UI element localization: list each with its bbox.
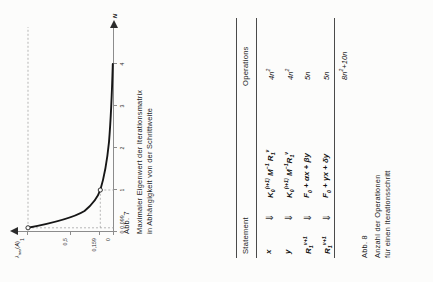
row-statement-rhs: F0 + γx + δy [321, 154, 332, 198]
operations-table: Statement Operations x ⇓ K0(ι+1) M−1 R1ν… [236, 18, 356, 258]
figure-8-caption-line1: Anzahl der Operationen [373, 170, 384, 258]
table-row: y ⇓ K0(ι+1) M−1R1ν 4n2 [281, 18, 300, 258]
chart-plot-area: 0 1 2 3 4 0 0,159 0,5 1 0,099 λmax(A) N [18, 27, 114, 232]
y-tick-label-05: 0,5 [62, 238, 68, 246]
x-tick-label-4: 4 [119, 63, 125, 66]
y-axis-arrow-icon [10, 228, 18, 236]
implies-arrow-icon: ⇓ [303, 214, 313, 222]
y-tick-label-0: 0 [105, 238, 111, 241]
table-row: x ⇓ K0(ι+1) M−1 R1ν 4n2 [262, 18, 281, 258]
row-statement-lhs: x [264, 224, 273, 254]
table-header-operations: Operations [241, 46, 250, 86]
figure-8-caption-number: Abb. 8 [360, 170, 371, 258]
table-total-operations: 8n2+10n [338, 52, 349, 80]
figure-7-caption-line1: Maximaler Eigenwert der Iterationsmatrix [135, 90, 146, 234]
row-statement-rhs: F0 + αx + βy [302, 153, 313, 198]
table-header-statement: Statement [241, 217, 250, 254]
row-operations: 5n [303, 72, 312, 80]
row-statement-lhs: R1ν+1 [302, 224, 314, 254]
figure-8-caption: Abb. 8 Anzahl der Operationen für einen … [360, 170, 394, 258]
x-axis-label: N [112, 14, 118, 18]
figure-7-caption-line2: in Abhängigkeit von der Schrittweite [145, 90, 156, 234]
table-header-rule [256, 18, 257, 258]
scanned-page: 0 1 2 3 4 0 0,159 0,5 1 0,099 λmax(A) N [0, 0, 433, 282]
y-axis-label: λmax(A) [14, 241, 22, 258]
y-tick-label-0159: 0,159 [91, 238, 97, 251]
figure-7-caption: Abb. 7 Maximaler Eigenwert der Iteration… [122, 90, 156, 234]
row-operations: 4n2 [284, 69, 295, 80]
figure-7-caption-number: Abb. 7 [122, 90, 133, 234]
chart-curve [18, 27, 114, 232]
table-top-rule [236, 18, 237, 258]
implies-arrow-icon: ⇓ [265, 214, 275, 222]
implies-arrow-icon: ⇓ [322, 214, 332, 222]
row-operations: 4n2 [265, 69, 276, 80]
row-operations: 5n [322, 72, 331, 80]
row-statement-rhs: K0(ι+1) M−1 R1ν [264, 149, 276, 198]
implies-arrow-icon: ⇓ [284, 214, 294, 222]
row-statement-rhs: K0(ι+1) M−1R1ν [283, 152, 295, 198]
table-row: R1ν+1 ⇓ F0 + αx + βy 5n [300, 18, 319, 258]
figure-7: 0 1 2 3 4 0 0,159 0,5 1 0,099 λmax(A) N [10, 12, 160, 262]
row-statement-lhs: y [283, 224, 292, 254]
figure-8: Statement Operations x ⇓ K0(ι+1) M−1 R1ν… [228, 4, 413, 272]
row-statement-lhs: R1ν+1 [321, 224, 333, 254]
figure-8-caption-line2: für einen Iterationsschritt [383, 170, 394, 258]
table-row: R1ν+1 ⇓ F0 + γx + δy 5n [319, 18, 338, 258]
